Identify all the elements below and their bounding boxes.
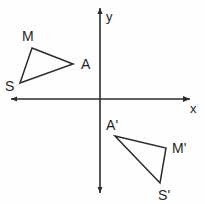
vertex-label-M-prime: M' xyxy=(172,141,187,155)
vertex-label-S-prime: S' xyxy=(158,188,170,202)
vertex-label-A: A xyxy=(81,57,91,71)
triangle-SMA-outline xyxy=(20,48,73,83)
vertex-label-A-prime: A' xyxy=(106,118,118,132)
y-axis-arrowhead-top xyxy=(97,8,102,14)
x-axis-arrowhead-left xyxy=(11,97,17,102)
x-axis-label: x xyxy=(190,102,197,115)
x-axis-arrowhead-right xyxy=(183,96,190,102)
vertex-label-M: M xyxy=(22,29,34,43)
coordinate-plane-figure: y x M A S A' M' S' xyxy=(0,0,205,204)
vertex-label-S: S xyxy=(5,79,15,93)
y-axis-label: y xyxy=(106,10,113,23)
y-axis-arrowhead-bottom xyxy=(98,187,103,193)
triangle-A-prime-M-prime-S-prime-outline xyxy=(115,136,166,183)
y-axis xyxy=(97,8,102,193)
